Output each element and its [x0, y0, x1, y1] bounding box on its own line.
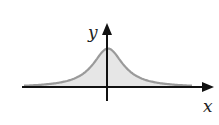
diagram: y x	[0, 0, 219, 125]
x-axis-label: x	[203, 96, 213, 116]
y-axis-label: y	[87, 22, 98, 42]
y-axis-arrowhead-icon	[102, 23, 112, 35]
x-axis-arrowhead-icon	[202, 82, 214, 92]
